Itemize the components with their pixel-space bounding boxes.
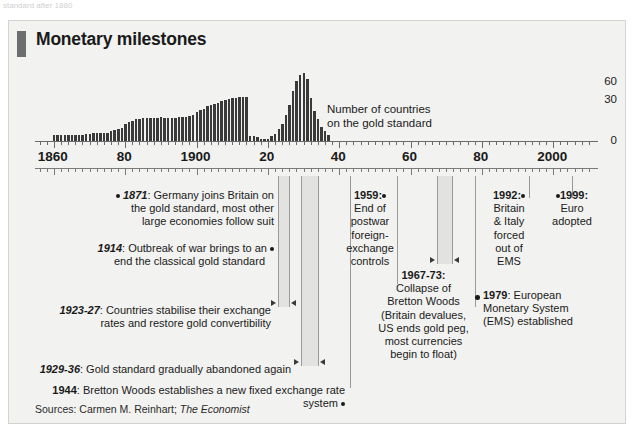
bar — [110, 131, 112, 141]
series-annotation-line1: Number of countries — [327, 103, 477, 117]
bar — [113, 130, 115, 141]
bar — [135, 119, 137, 141]
page-title: Monetary milestones — [36, 29, 206, 50]
note-1967-line5: most currencies — [376, 335, 471, 348]
bar — [103, 133, 105, 141]
note-1992-line3: forced — [487, 229, 531, 242]
note-1923: 1923-27: Countries stabilise their excha… — [39, 304, 271, 330]
note-1979-line3: (EMS) established — [483, 315, 598, 328]
note-1871-line1: : Germany joins Britain on — [147, 189, 274, 201]
bar — [220, 101, 222, 141]
bar — [285, 115, 287, 141]
bar — [96, 133, 98, 141]
note-1967: 1967-73: Collapse of Bretton Woods (Brit… — [376, 269, 471, 361]
y-tick-30: 30 — [595, 93, 617, 105]
bar — [210, 105, 212, 141]
bar — [199, 110, 201, 141]
bar — [89, 134, 91, 141]
bar-chart-plot — [35, 69, 595, 141]
note-1959-line3: foreign- — [345, 229, 395, 242]
bar — [163, 118, 165, 141]
guideline-1929 — [301, 176, 302, 366]
bar — [313, 111, 315, 141]
source-line: Sources: Carmen M. Reinhart; The Economi… — [35, 403, 250, 415]
note-1914-line2: end the classical gold standard — [39, 255, 274, 268]
guideline-1959 — [397, 176, 398, 284]
guideline-1967 — [437, 176, 438, 264]
bar — [213, 104, 215, 141]
bar — [117, 129, 119, 141]
note-1979: 1979: European Monetary System (EMS) est… — [483, 289, 598, 329]
marker-dot-1944 — [341, 402, 345, 406]
bar — [167, 118, 169, 141]
note-1967-line1: Collapse of — [376, 282, 471, 295]
bar — [224, 100, 226, 141]
note-1914-year: 1914 — [98, 242, 122, 254]
bar — [188, 116, 190, 141]
note-1959-year: 1959: — [354, 189, 382, 201]
bar — [320, 127, 322, 141]
bar — [138, 119, 140, 141]
bar — [238, 97, 240, 141]
bar — [299, 75, 301, 141]
series-annotation: Number of countries on the gold standard — [327, 103, 477, 130]
bar — [303, 73, 305, 141]
note-1999: 1999: Euro adopted — [543, 189, 601, 229]
note-1999-line1: Euro — [543, 202, 601, 215]
title-row: Monetary milestones — [9, 27, 625, 61]
bar — [196, 112, 198, 141]
x-tick-label-1900: 1900 — [180, 149, 210, 164]
bar — [178, 117, 180, 141]
marker-dot-1959 — [382, 194, 386, 198]
note-1999-year: 1999: — [560, 189, 588, 201]
band-1967-73 — [438, 176, 452, 264]
x-tick-label-1880: 80 — [117, 149, 132, 164]
note-1979-line2: Monetary System — [483, 302, 598, 315]
source-publication: The Economist — [180, 403, 250, 415]
note-1871: 1871: Germany joins Britain on the gold … — [49, 189, 274, 229]
bar — [124, 124, 126, 141]
note-1959-line4: exchange — [345, 242, 395, 255]
bar — [217, 103, 219, 141]
arrow-left-1973 — [454, 257, 459, 263]
bar — [142, 118, 144, 141]
x-tick-label-1920: 20 — [259, 149, 274, 164]
marker-dot-1967 — [475, 295, 480, 300]
bar — [85, 134, 87, 141]
bar — [306, 79, 308, 141]
bar — [203, 109, 205, 141]
note-1929: 1929-36: Gold standard gradually abandon… — [39, 363, 291, 376]
note-1871-line2: the gold standard, most other — [49, 202, 274, 215]
marker-dot-1914 — [270, 247, 274, 251]
arrow-right-1929 — [294, 359, 299, 365]
bar — [174, 118, 176, 141]
band-1923-27 — [279, 176, 289, 307]
bar — [278, 129, 280, 141]
bar — [192, 115, 194, 141]
note-1959-line1: End of — [345, 202, 395, 215]
bar — [185, 117, 187, 141]
bar — [149, 118, 151, 141]
guideline-1927 — [289, 176, 290, 307]
note-1992: 1992: Britain & Italy forced out of EMS — [487, 189, 531, 268]
bar — [121, 128, 123, 141]
note-1959-line5: controls — [345, 255, 395, 268]
bar — [231, 98, 233, 141]
x-tick-label-2000: 2000 — [537, 149, 567, 164]
note-1992-line2: & Italy — [487, 215, 531, 228]
note-1979-year: 1979 — [483, 289, 507, 301]
bar — [171, 118, 173, 141]
note-1992-line4: out of — [487, 242, 531, 255]
note-1992-line1: Britain — [487, 202, 531, 215]
bar — [92, 133, 94, 141]
bar — [245, 97, 247, 141]
note-1992-year: 1992: — [493, 189, 521, 201]
x-tick-label-1980: 80 — [473, 149, 488, 164]
y-tick-0: 0 — [595, 134, 617, 146]
secondary-axis-ticks — [35, 169, 598, 175]
title-accent-bar — [17, 31, 26, 57]
bar — [228, 99, 230, 141]
x-axis-ticks — [35, 142, 598, 148]
note-1871-year: 1871 — [123, 189, 147, 201]
bar — [295, 81, 297, 141]
